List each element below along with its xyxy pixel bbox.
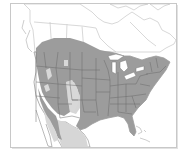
range-primary	[36, 38, 170, 140]
pacific-coast	[22, 20, 32, 52]
caribbean-islands	[136, 126, 150, 142]
range-map	[0, 0, 190, 161]
